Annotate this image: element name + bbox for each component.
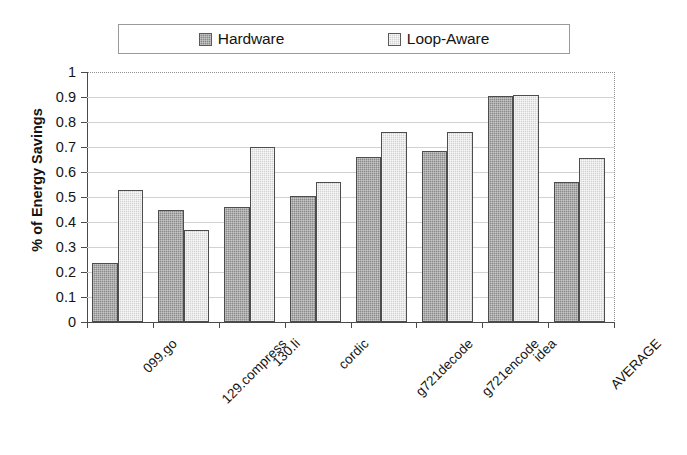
x-axis-tick-label: g721decode: [413, 336, 476, 399]
x-axis-tick-label: 129.compress: [219, 336, 290, 407]
y-axis-tick-label: 0.7: [42, 139, 76, 155]
x-axis-tick: [416, 322, 417, 328]
bar-loop-aware-g721encode: [447, 132, 473, 322]
x-axis-tick: [219, 322, 220, 328]
y-axis-tick-label: 0.4: [42, 214, 76, 230]
legend-entry-hardware[interactable]: Hardware: [199, 30, 284, 48]
x-axis-tick-label: AVERAGE: [608, 336, 664, 392]
bar-hardware-cordic: [290, 196, 316, 322]
bar-loop-aware-average: [579, 158, 605, 322]
loop-aware-swatch-icon: [388, 33, 401, 46]
hardware-swatch-icon: [199, 33, 212, 46]
bar-hardware-g721encode: [422, 151, 448, 322]
legend-entry-loop-aware[interactable]: Loop-Aware: [388, 30, 489, 48]
legend-items: HardwareLoop-Aware: [119, 25, 569, 53]
y-axis-tick-label: 0.9: [42, 89, 76, 105]
plot-right-border: [614, 72, 615, 323]
bar-loop-aware-idea: [513, 95, 539, 323]
y-axis-tick-label: 0.5: [42, 189, 76, 205]
x-axis-tick-label: g721encode: [479, 336, 542, 399]
bar-hardware-130-li: [224, 207, 250, 322]
x-axis-tick-label: cordic: [336, 336, 372, 372]
x-axis-tick: [482, 322, 483, 328]
bar-loop-aware-129-compress: [184, 230, 210, 323]
bar-loop-aware-130-li: [250, 147, 276, 322]
x-axis-tick: [548, 322, 549, 328]
bar-hardware-average: [554, 182, 580, 322]
y-axis-tick-label: 0.2: [42, 264, 76, 280]
plot-area: [87, 72, 614, 322]
x-axis-tick: [87, 322, 88, 328]
energy-savings-bar-chart: HardwareLoop-Aware % of Energy Savings 0…: [0, 0, 687, 455]
y-axis-tick-label: 0.8: [42, 114, 76, 130]
bar-loop-aware-cordic: [316, 182, 342, 322]
y-axis-tick-label: 0.6: [42, 164, 76, 180]
y-axis-tick-label: 1: [42, 64, 76, 80]
x-axis-tick: [153, 322, 154, 328]
y-axis-tick-label: 0.3: [42, 239, 76, 255]
x-axis-tick: [285, 322, 286, 328]
bar-hardware-g721decode: [356, 157, 382, 322]
x-axis-tick: [351, 322, 352, 328]
x-axis-tick: [614, 322, 615, 328]
bar-hardware-idea: [488, 96, 514, 322]
bar-loop-aware-099-go: [118, 190, 144, 323]
bar-hardware-129-compress: [158, 210, 184, 323]
x-axis-tick-label: 099.go: [140, 336, 180, 376]
legend-label: Loop-Aware: [407, 30, 489, 48]
y-axis-tick-label: 0: [42, 314, 76, 330]
y-axis-tick-label: 0.1: [42, 289, 76, 305]
legend-label: Hardware: [218, 30, 284, 48]
chart-legend: HardwareLoop-Aware: [118, 24, 570, 54]
bar-hardware-099-go: [92, 263, 118, 322]
bar-loop-aware-g721decode: [381, 132, 407, 322]
